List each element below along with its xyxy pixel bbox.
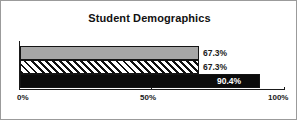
bar-value-label-1: 67.3% [203, 49, 227, 58]
bar-series-2[interactable] [20, 60, 199, 74]
x-axis-label-50: 50% [140, 94, 156, 102]
x-axis-label-0: 0% [17, 94, 29, 102]
bar-series-1[interactable] [20, 46, 199, 60]
chart-container: Student Demographics 67.3% 67.3% 90.4% 0… [0, 0, 297, 120]
bar-value-label-3: 90.4% [217, 77, 241, 86]
x-axis-label-100: 100% [268, 94, 288, 102]
bar-value-label-2: 67.3% [203, 63, 227, 72]
x-axis-tick-100 [284, 87, 285, 90]
plot-area: 67.3% 67.3% 90.4% 0% 50% 100% [1, 1, 297, 120]
